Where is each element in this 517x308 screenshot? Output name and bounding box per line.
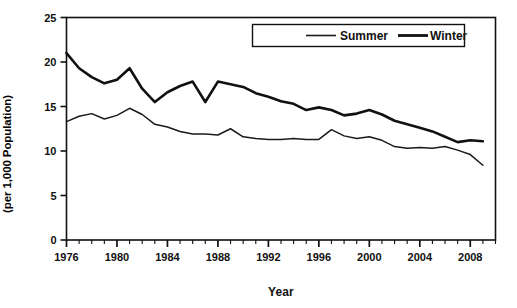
- x-tick-label: 1996: [307, 251, 331, 263]
- chart-legend: Summer Winter: [253, 25, 468, 47]
- x-tick-label: 1992: [256, 251, 280, 263]
- x-tick-label: 1988: [206, 251, 230, 263]
- x-axis-title: Year: [268, 285, 294, 299]
- plot-frame: [67, 18, 496, 241]
- y-axis-tick-labels: 0510152025: [44, 12, 56, 247]
- x-axis-tick-labels: 197619801984198819921996200020042008: [54, 251, 482, 263]
- mortality-rate-line-chart: Standardized Mortality Rate (per 1,000 P…: [0, 0, 517, 308]
- y-tick-label: 15: [44, 101, 56, 113]
- chart-canvas: 0510152025 19761980198419881992199620002…: [0, 0, 517, 308]
- x-tick-label: 2008: [458, 251, 482, 263]
- y-tick-label: 5: [50, 190, 56, 202]
- x-tick-label: 1980: [105, 251, 129, 263]
- x-axis-major-ticks: [67, 240, 471, 247]
- legend-label-summer: Summer: [340, 29, 388, 43]
- x-tick-label: 1984: [155, 251, 180, 263]
- y-tick-label: 25: [44, 12, 56, 24]
- x-tick-label: 1976: [54, 251, 78, 263]
- y-tick-label: 0: [50, 234, 56, 246]
- y-tick-label: 20: [44, 56, 56, 68]
- x-tick-label: 2000: [357, 251, 381, 263]
- legend-label-winter: Winter: [430, 29, 468, 43]
- y-tick-label: 10: [44, 145, 56, 157]
- x-tick-label: 2004: [408, 251, 433, 263]
- y-axis-ticks: [61, 18, 67, 241]
